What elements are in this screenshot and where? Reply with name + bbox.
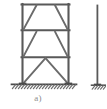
bottom-story-right-diagonal [46, 58, 68, 83]
top-story-bracing [24, 5, 68, 29]
frame-b-ground-hatching [92, 86, 106, 90]
middle-story-right-diagonal [55, 32, 68, 57]
middle-story-bracing [24, 32, 68, 57]
bottom-story-bracing [24, 58, 68, 83]
frame-b-partial-group [92, 6, 107, 90]
ground-support-group [12, 84, 77, 88]
frame-a-group [12, 4, 77, 89]
middle-story-left-diagonal [24, 32, 37, 57]
top-story-left-diagonal [24, 5, 37, 29]
bottom-story-left-diagonal [24, 58, 46, 83]
ground-hatching [12, 85, 75, 89]
top-story-right-diagonal [55, 5, 68, 29]
beams-group [22, 5, 70, 58]
structural-frame-diagram [0, 0, 106, 109]
figure-sheet: a) [0, 0, 106, 109]
